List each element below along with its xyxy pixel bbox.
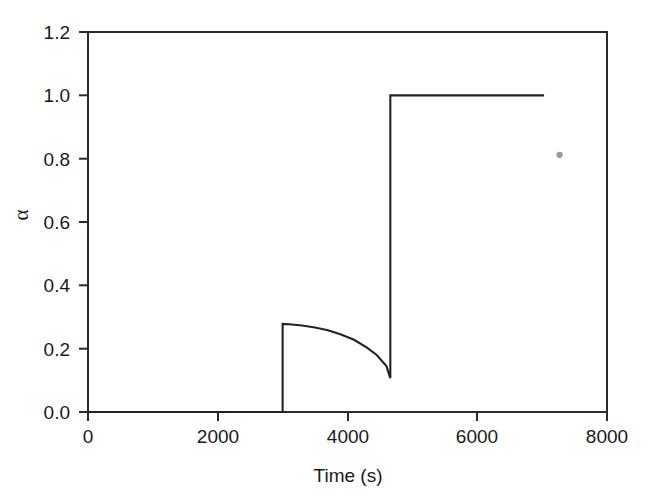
x-tick-label-4000: 4000 [327,426,369,447]
x-axis-title: Time (s) [314,465,383,486]
y-axis-tick-labels: 0.0 0.2 0.4 0.6 0.8 1.0 1.2 [44,22,71,423]
y-tick-label-0.4: 0.4 [44,275,71,296]
y-axis-ticks [79,32,88,412]
x-tick-label-6000: 6000 [456,426,498,447]
data-series-line [88,95,544,412]
alpha-vs-time-line-chart: 0 2000 4000 6000 8000 0.0 0.2 0.4 0.6 0.… [0,0,648,498]
x-tick-label-0: 0 [83,426,94,447]
x-tick-label-2000: 2000 [197,426,239,447]
x-tick-label-8000: 8000 [586,426,628,447]
y-tick-label-1.2: 1.2 [44,22,70,43]
y-tick-label-0.6: 0.6 [44,212,70,233]
gray-speck-artifact [556,152,562,158]
x-axis-ticks [88,412,607,421]
y-axis-title: α [9,209,33,220]
chart-figure: 0 2000 4000 6000 8000 0.0 0.2 0.4 0.6 0.… [0,0,648,498]
axes-border [88,32,607,412]
y-tick-label-0.0: 0.0 [44,402,70,423]
x-axis-tick-labels: 0 2000 4000 6000 8000 [83,426,628,447]
y-tick-label-1.0: 1.0 [44,85,70,106]
plot-frame [88,32,607,412]
y-tick-label-0.2: 0.2 [44,339,70,360]
y-tick-label-0.8: 0.8 [44,149,70,170]
